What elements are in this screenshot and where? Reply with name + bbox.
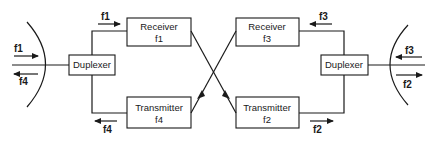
transmitter-f2-label: Transmitter — [243, 102, 291, 113]
receiver-f3-label: Receiver — [248, 21, 286, 32]
right-rx-wire — [299, 31, 344, 55]
left-duplexer: Duplexer — [69, 55, 115, 75]
rx-f1-to-tx-f2-arrowhead — [222, 90, 230, 99]
left-tx-wire — [92, 75, 127, 113]
right-duplexer-label: Duplexer — [325, 59, 363, 70]
left-duplexer-label: Duplexer — [73, 59, 111, 70]
transmitter-f2-block: Transmitter f2 — [236, 97, 299, 128]
left-rx-wire — [92, 31, 127, 55]
right-duplexer: Duplexer — [321, 55, 368, 75]
transmitter-f4-block: Transmitter f4 — [127, 97, 191, 128]
receiver-f3-freq: f3 — [263, 33, 271, 44]
right-tx-wire — [299, 75, 344, 113]
receiver-f1-block: Receiver f1 — [127, 18, 191, 46]
receiver-f3-block: Receiver f3 — [236, 18, 299, 46]
receiver-f1-freq: f1 — [155, 33, 163, 44]
transmitter-f4-label: Transmitter — [135, 102, 183, 113]
right-rx-f3-label: f3 — [319, 11, 328, 22]
receiver-f1-label: Receiver — [140, 21, 178, 32]
left-tx-f4-label: f4 — [103, 124, 112, 135]
transmitter-f4-freq: f4 — [155, 114, 163, 125]
transmitter-f2-freq: f2 — [263, 114, 271, 125]
left-antenna-f4-label: f4 — [19, 76, 28, 87]
rx-f3-to-tx-f4-arrowhead — [197, 90, 205, 99]
right-tx-f2-label: f2 — [313, 124, 322, 135]
right-antenna-f3-label: f3 — [405, 45, 414, 56]
right-antenna-f2-label: f2 — [403, 79, 412, 90]
left-antenna-f1-label: f1 — [14, 43, 23, 54]
repeater-diagram: Duplexer Receiver f1 Transmitter f4 Rece… — [0, 0, 436, 141]
left-rx-f1-label: f1 — [101, 11, 110, 22]
